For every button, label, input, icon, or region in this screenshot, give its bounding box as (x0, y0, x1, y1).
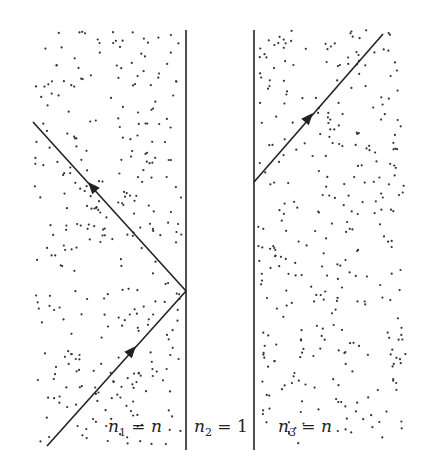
medium-3-label: n3 = n (278, 416, 332, 439)
medium-1-dots (34, 31, 183, 446)
transmitted-ray (254, 34, 383, 182)
medium-3-dots (257, 29, 406, 444)
diagram-canvas (0, 0, 436, 471)
medium-2-label: n2 = 1 (194, 416, 248, 439)
medium-1-label: n1 = n (108, 416, 162, 439)
reflected-ray (33, 122, 186, 291)
